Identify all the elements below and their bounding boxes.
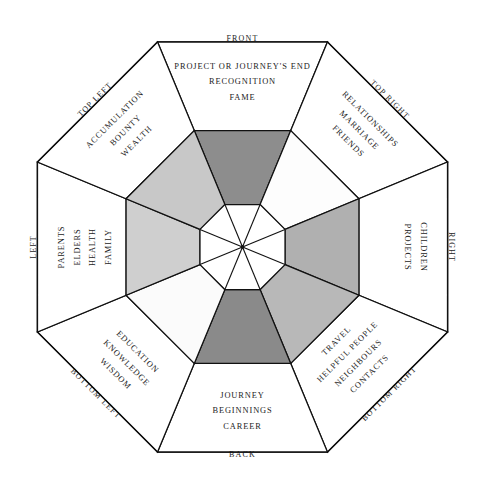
- keyword-right-1: PROJECTS: [403, 223, 412, 270]
- keyword-back-0: CAREER: [223, 422, 261, 431]
- keyword-left-1: ELDERS: [73, 228, 82, 265]
- keyword-back-2: JOURNEY: [220, 391, 264, 400]
- bagua-svg: FRONTPROJECT OR JOURNEY'S ENDRECOGNITION…: [0, 0, 485, 492]
- bagua-diagram: FRONTPROJECT OR JOURNEY'S ENDRECOGNITION…: [0, 0, 485, 492]
- keyword-front-1: RECOGNITION: [209, 77, 276, 86]
- keyword-front-2: FAME: [229, 93, 255, 102]
- keyword-front-0: PROJECT OR JOURNEY'S END: [174, 62, 310, 71]
- direction-label-back: BACK: [229, 450, 256, 459]
- keyword-left-2: HEALTH: [88, 228, 97, 266]
- keyword-right-0: CHILDREN: [419, 222, 428, 272]
- center-point: [241, 245, 245, 249]
- keyword-left-3: FAMILY: [104, 229, 113, 265]
- keyword-back-1: BEGINNINGS: [212, 406, 272, 415]
- keyword-left-0: PARENTS: [57, 226, 66, 269]
- core-octagon-group: [200, 205, 285, 290]
